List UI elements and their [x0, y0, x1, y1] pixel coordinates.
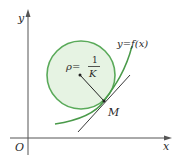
origin-label: O	[15, 141, 24, 154]
y-axis-arrow-icon	[26, 9, 31, 17]
curve-label: y=f(x)	[116, 38, 148, 49]
radius-label-lhs: ρ=	[65, 61, 80, 72]
radius-label-numerator: 1	[92, 55, 98, 65]
curvature-diagram: y x O y=f(x) M ρ= 1 K	[0, 0, 181, 164]
x-axis-label: x	[163, 140, 170, 153]
y-axis-label: y	[17, 12, 25, 25]
tangent-point	[103, 100, 106, 103]
radius-label-denominator: K	[88, 68, 97, 79]
point-label: M	[107, 106, 120, 119]
center-point	[79, 74, 82, 77]
